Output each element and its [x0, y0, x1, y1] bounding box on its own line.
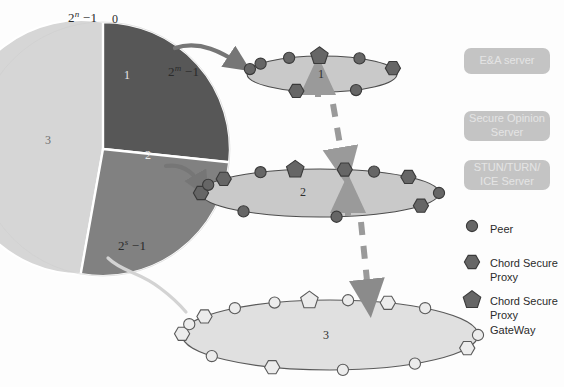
ring-3-node-peer[interactable] [337, 364, 348, 375]
ring-1-node-peer[interactable] [255, 58, 266, 69]
legend-peer-glyph[interactable] [466, 220, 477, 231]
ring-1-node-peer[interactable] [284, 52, 295, 63]
pie-label-2n-minus-1: 2n −1 [68, 9, 97, 26]
stun-turn-ice-server-box[interactable]: STUN/TURN/ ICE Server [464, 160, 550, 190]
ring-2-node-peer[interactable] [331, 211, 342, 222]
secure-opinion-server-box[interactable]: Secure Opinion Server [464, 111, 550, 141]
legend-chord-secure-proxy-label: Chord Secure Proxy [490, 256, 558, 285]
pie-slice-2 [81, 149, 230, 276]
ring-2-node-peer[interactable] [238, 206, 249, 217]
ring-2-node-peer[interactable] [368, 166, 379, 177]
ring-1-node-peer[interactable] [350, 84, 361, 95]
pie-label-2m-minus-1: 2m −1 [168, 63, 199, 80]
ring-3-node-chord-secure-proxy[interactable] [380, 296, 395, 309]
ring-3-node-peer[interactable] [342, 295, 353, 306]
ea-server-box[interactable]: E&A server [464, 48, 550, 74]
ring-3-node-chord-secure-proxy-gateway[interactable] [301, 291, 319, 308]
ring-3-node-chord-secure-proxy[interactable] [265, 361, 280, 374]
ring-1-node-peer[interactable] [354, 53, 365, 64]
pie-chart [0, 20, 230, 276]
ring-3-label: 3 [323, 328, 329, 343]
pie-slice-1 [103, 22, 230, 162]
ring-3-node-peer[interactable] [229, 303, 240, 314]
ring-1-node-chord-secure-proxy[interactable] [289, 84, 304, 97]
ring-3-node-peer[interactable] [269, 297, 280, 308]
ring-3-node-chord-secure-proxy[interactable] [197, 310, 212, 323]
ring-2-node-chord-secure-proxy[interactable] [337, 163, 352, 176]
ring-2-node-chord-secure-proxy[interactable] [401, 170, 416, 183]
ring-2-node-peer[interactable] [255, 167, 266, 178]
legend-shapes [463, 220, 481, 307]
ring-2-node-chord-secure-proxy-gateway[interactable] [287, 160, 305, 177]
dashed-link-ring1-ring2 [333, 104, 344, 168]
ring-3-node-peer[interactable] [184, 319, 195, 330]
ring-2-label: 2 [300, 185, 306, 200]
pie-slice-2-label: 2 [145, 148, 151, 163]
diagram-canvas: 2n −1 0 2m −1 2s −1 1 2 3 1 2 3 E&A serv… [0, 0, 564, 387]
ring-2-node-peer[interactable] [433, 187, 444, 198]
ring-1-label: 1 [318, 67, 324, 82]
ring-3-node-chord-secure-proxy[interactable] [460, 342, 475, 355]
ring-3-group [182, 300, 478, 370]
legend-chord-secure-proxy-gateway-glyph[interactable] [463, 291, 481, 308]
ring-2-node-peer[interactable] [203, 179, 214, 190]
ring-3-node-peer[interactable] [409, 358, 420, 369]
pie-slice-3-label: 3 [45, 133, 51, 148]
legend-chord-secure-proxy-glyph[interactable] [464, 255, 479, 268]
ring-3-node-peer[interactable] [472, 329, 483, 340]
ring-3-ellipse [182, 300, 478, 370]
ring-3-node-peer[interactable] [206, 350, 217, 361]
legend-peer-label: Peer [490, 222, 513, 236]
pie-slice-1-label: 1 [124, 68, 130, 83]
dashed-link-ring2-ring3 [361, 222, 369, 300]
ring-1-node-peer[interactable] [244, 63, 255, 74]
ring-2-node-chord-secure-proxy[interactable] [216, 172, 231, 185]
ring-1-node-chord-secure-proxy[interactable] [385, 62, 400, 75]
pie-label-zero: 0 [112, 12, 118, 27]
ring-1-node-chord-secure-proxy-gateway[interactable] [311, 47, 329, 64]
pie-label-2s-minus-1: 2s −1 [118, 237, 146, 254]
ring-2-node-chord-secure-proxy[interactable] [413, 199, 428, 212]
ring-3-node-peer[interactable] [420, 303, 431, 314]
legend-chord-secure-proxy-gateway-label: Chord Secure Proxy GateWay [490, 294, 564, 337]
